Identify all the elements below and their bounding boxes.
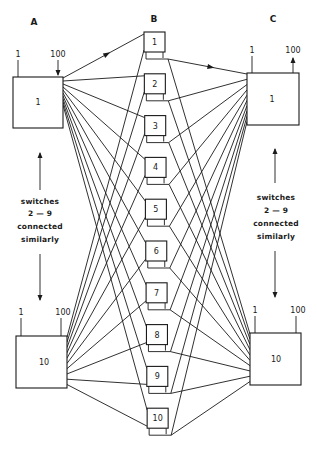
wire-b2-to-c1 bbox=[168, 79, 247, 101]
switch-b-4-label: 4 bbox=[153, 163, 158, 172]
wire-a10-to-b3 bbox=[67, 134, 145, 348]
terminal-label-c10-last: 100 bbox=[290, 306, 305, 315]
wire-a1-to-b2 bbox=[63, 76, 144, 81]
switch-b-8-tail bbox=[148, 345, 170, 352]
terminal-label-c10-first: 1 bbox=[252, 306, 257, 315]
switch-b-8-label: 8 bbox=[154, 331, 159, 340]
switch-b-6-tail bbox=[148, 261, 170, 268]
wire-b6-to-c1 bbox=[170, 100, 247, 268]
wire-b8-to-c10 bbox=[170, 352, 250, 371]
switch-b-9-label: 9 bbox=[155, 372, 160, 381]
left-note-line-3: connected bbox=[17, 222, 63, 231]
switch-b-5: 5 bbox=[145, 199, 169, 226]
switch-b-7: 7 bbox=[146, 283, 170, 310]
wire-b10-to-c10 bbox=[171, 382, 250, 436]
wire-a10-to-b2 bbox=[67, 92, 144, 342]
switch-b-8: 8 bbox=[146, 325, 170, 352]
switch-b-2-tail bbox=[146, 94, 168, 101]
wire-b1-to-c10 bbox=[168, 59, 250, 334]
switch-b-3-label: 3 bbox=[153, 122, 158, 131]
wires-stage-a-to-b bbox=[63, 34, 147, 426]
switch-b-4: 4 bbox=[145, 157, 169, 184]
switch-b-2: 2 bbox=[144, 74, 168, 101]
switch-c-10-label: 10 bbox=[271, 355, 281, 364]
wire-b2-to-c10 bbox=[168, 101, 250, 339]
switch-c-1-label: 1 bbox=[269, 95, 274, 104]
wire-b9-to-c1 bbox=[171, 116, 247, 393]
left-note-line-2: 2 — 9 bbox=[28, 209, 52, 218]
terminal-label-c1-last: 100 bbox=[285, 46, 300, 55]
switch-a-1-label: 1 bbox=[35, 98, 40, 107]
column-label-c: C bbox=[270, 14, 277, 24]
wire-a1-to-b3 bbox=[63, 84, 145, 118]
right-note-line-4: similarly bbox=[257, 232, 295, 241]
terminal-label-a10-first: 1 bbox=[18, 308, 23, 317]
wire-a1-to-b1 bbox=[63, 34, 144, 78]
wire-b1-to-c1 bbox=[168, 59, 247, 74]
terminal-label-a1-last: 100 bbox=[50, 50, 65, 59]
switch-b-3: 3 bbox=[145, 116, 169, 143]
switch-b-10-tail bbox=[149, 428, 171, 435]
switch-b-7-label: 7 bbox=[154, 289, 159, 298]
column-label-b: B bbox=[151, 14, 158, 24]
switch-b-3-tail bbox=[147, 136, 169, 143]
left-note-line-4: similarly bbox=[21, 235, 59, 244]
switch-b-9: 9 bbox=[147, 366, 171, 393]
switch-c-10: 1 100 10 bbox=[250, 306, 306, 385]
terminal-label-a10-last: 100 bbox=[55, 308, 70, 317]
right-note: switches 2 — 9 connected similarly bbox=[253, 149, 299, 297]
switch-b-4-tail bbox=[147, 177, 169, 184]
switch-b-1: 1 bbox=[144, 32, 168, 59]
right-note-line-2: 2 — 9 bbox=[264, 206, 288, 215]
switch-b-5-label: 5 bbox=[153, 205, 158, 214]
right-note-line-3: connected bbox=[253, 219, 299, 228]
flow-arrow-a-to-b-icon bbox=[103, 50, 112, 58]
switch-b-10: 10 bbox=[147, 408, 171, 435]
column-label-a: A bbox=[31, 17, 38, 27]
wire-a10-to-b9 bbox=[67, 379, 147, 384]
stage-b-switches: 12345678910 bbox=[144, 32, 171, 435]
switch-b-10-label: 10 bbox=[153, 414, 163, 423]
switch-a-1: 1 100 1 bbox=[13, 50, 66, 128]
switch-b-9-tail bbox=[149, 386, 171, 393]
wire-a1-to-b9 bbox=[63, 102, 147, 368]
flow-arrow-b-to-c-icon bbox=[207, 64, 215, 70]
wire-a1-to-b5 bbox=[63, 90, 145, 201]
wire-b9-to-c10 bbox=[171, 376, 250, 393]
wire-a10-to-b10 bbox=[67, 385, 147, 427]
wire-b8-to-c1 bbox=[170, 111, 247, 352]
switch-b-1-tail bbox=[146, 52, 168, 59]
switch-b-2-label: 2 bbox=[152, 80, 157, 89]
wire-b4-to-c10 bbox=[169, 184, 250, 349]
switch-b-7-tail bbox=[148, 303, 170, 310]
switch-b-1-label: 1 bbox=[152, 38, 157, 47]
switch-a-10-label: 10 bbox=[39, 358, 49, 367]
right-note-line-1: switches bbox=[257, 193, 296, 202]
switch-b-5-tail bbox=[147, 219, 169, 226]
terminal-label-a1-first: 1 bbox=[15, 50, 20, 59]
switch-a-10: 1 100 10 bbox=[16, 308, 71, 388]
three-stage-switching-network-diagram: A B C 1 100 1 1 100 10 1 100 1 1 100 10 … bbox=[0, 0, 317, 453]
wires-stage-b-to-c bbox=[168, 59, 250, 435]
switch-b-6-label: 6 bbox=[154, 247, 159, 256]
switch-c-1: 1 100 1 bbox=[247, 46, 301, 125]
wire-b5-to-c1 bbox=[169, 95, 247, 226]
switch-b-6: 6 bbox=[146, 241, 170, 268]
left-note-line-1: switches bbox=[21, 197, 60, 206]
left-note: switches 2 — 9 connected similarly bbox=[17, 153, 63, 300]
wire-b3-to-c1 bbox=[169, 85, 247, 143]
terminal-label-c1-first: 1 bbox=[249, 46, 254, 55]
wire-b7-to-c10 bbox=[170, 310, 250, 366]
wire-a1-to-b8 bbox=[63, 99, 146, 327]
